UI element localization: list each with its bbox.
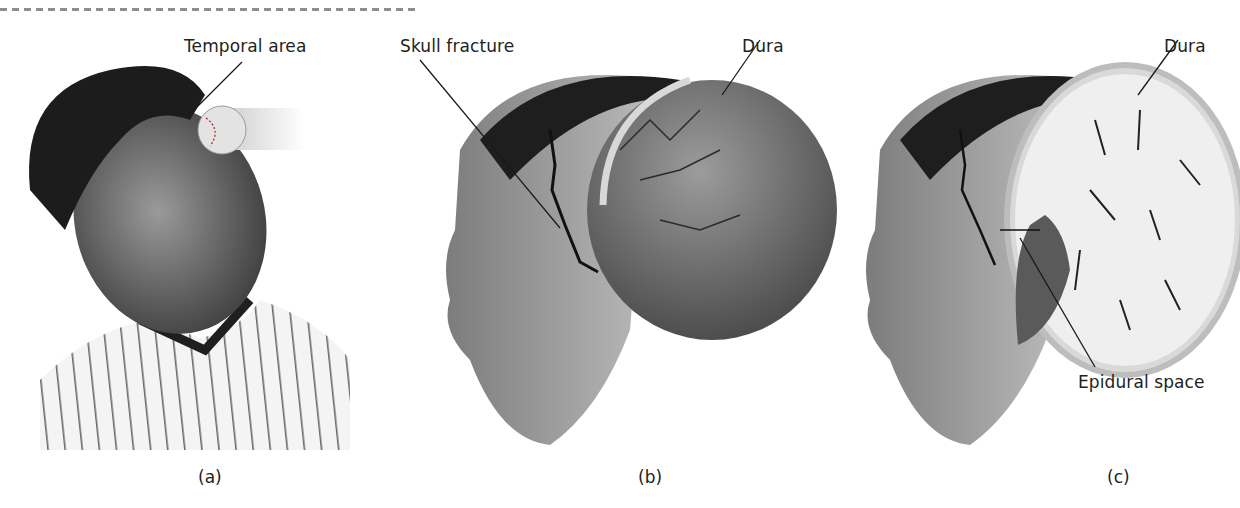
panel-b: Skull fracture Dura (b): [400, 0, 820, 508]
label-temporal-area: Temporal area: [184, 36, 306, 56]
skull-fracture-dura-illustration: [400, 0, 820, 508]
label-dura-c: Dura: [1164, 36, 1206, 56]
caption-b: (b): [638, 467, 662, 487]
boy-hit-by-baseball-illustration: [0, 0, 400, 508]
label-epidural-space: Epidural space: [1078, 372, 1205, 392]
label-skull-fracture: Skull fracture: [400, 36, 514, 56]
panel-a: Temporal area (a): [0, 0, 400, 508]
caption-a: (a): [198, 467, 222, 487]
panel-c: Dura Epidural space (c): [820, 0, 1240, 508]
caption-c: (c): [1107, 467, 1130, 487]
epidural-hematoma-cross-section: [820, 0, 1240, 508]
label-dura-b: Dura: [742, 36, 784, 56]
